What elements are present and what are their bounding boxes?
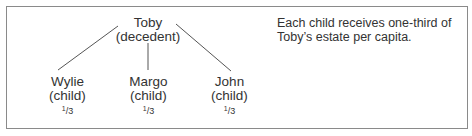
- child-share: 1/3: [202, 103, 257, 117]
- child-node-john: John (child) 1/3: [202, 75, 257, 117]
- note-line-2: Toby’s estate per capita.: [277, 30, 451, 44]
- root-node: Toby (decedent): [113, 16, 183, 44]
- connector-john: [176, 24, 231, 71]
- child-name: Wylie: [40, 75, 95, 89]
- note-line-1: Each child receives one-third of: [277, 16, 451, 30]
- child-role: (child): [202, 89, 257, 103]
- child-name: John: [202, 75, 257, 89]
- child-role: (child): [40, 89, 95, 103]
- child-node-margo: Margo (child) 1/3: [121, 75, 176, 117]
- explanation-note: Each child receives one-third of Toby’s …: [277, 16, 451, 44]
- child-share: 1/3: [40, 103, 95, 117]
- connector-wylie: [58, 26, 118, 70]
- child-share: 1/3: [121, 103, 176, 117]
- root-name: Toby: [113, 16, 183, 30]
- child-node-wylie: Wylie (child) 1/3: [40, 75, 95, 117]
- root-role: (decedent): [113, 30, 183, 44]
- child-role: (child): [121, 89, 176, 103]
- child-name: Margo: [121, 75, 176, 89]
